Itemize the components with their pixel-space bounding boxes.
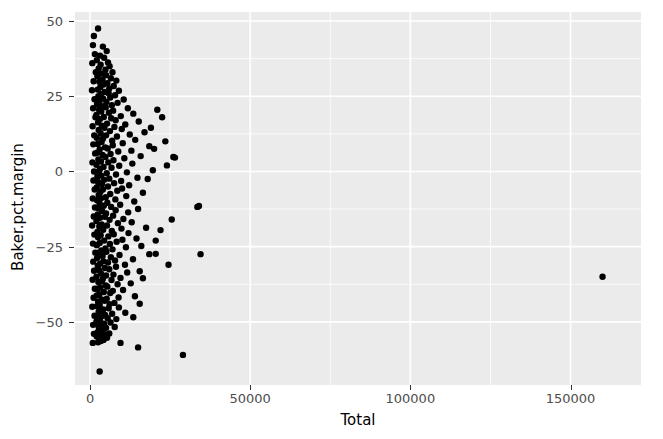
data-point (118, 178, 124, 184)
data-point (114, 100, 120, 106)
data-point (96, 368, 102, 374)
data-point (111, 180, 117, 186)
data-point (137, 301, 143, 307)
data-point (104, 283, 110, 289)
data-point (91, 213, 97, 219)
data-point (113, 316, 119, 322)
data-point (90, 295, 96, 301)
data-point (90, 42, 96, 48)
data-point (599, 274, 605, 280)
data-point (112, 324, 118, 330)
data-point (91, 231, 97, 237)
data-point (132, 293, 138, 299)
data-point (104, 145, 110, 151)
data-point (127, 131, 133, 137)
data-point (120, 216, 126, 222)
data-point (112, 257, 118, 263)
data-point (91, 168, 97, 174)
data-point (91, 33, 97, 39)
data-point (141, 129, 147, 135)
data-point (108, 277, 114, 283)
data-point (116, 163, 122, 169)
data-point (113, 264, 119, 270)
y-tick-mark (69, 322, 74, 323)
data-point (145, 176, 151, 182)
data-point (133, 235, 139, 241)
data-point (194, 204, 200, 210)
data-point (105, 159, 111, 165)
data-point (120, 287, 126, 293)
data-point (90, 195, 96, 201)
data-point (90, 141, 96, 147)
data-point (169, 216, 175, 222)
data-point (128, 280, 134, 286)
data-point (132, 137, 138, 143)
data-point (90, 258, 96, 264)
data-point (93, 69, 99, 75)
data-point (153, 237, 159, 243)
data-point (114, 187, 120, 193)
y-tick-mark (69, 247, 74, 248)
data-point (137, 153, 143, 159)
x-tick-mark (250, 385, 251, 390)
data-point (128, 147, 134, 153)
data-point (101, 125, 107, 131)
data-point (108, 165, 114, 171)
data-point (118, 225, 124, 231)
data-point (120, 96, 126, 102)
y-tick-label: 50 (46, 14, 63, 29)
y-tick-mark (69, 171, 74, 172)
data-point (135, 344, 141, 350)
data-point (91, 267, 97, 273)
data-point (99, 253, 105, 259)
x-tick-label: 0 (86, 391, 94, 406)
data-point (134, 175, 140, 181)
data-point (112, 196, 118, 202)
data-point (117, 340, 123, 346)
data-point (90, 340, 96, 346)
data-point (106, 266, 112, 272)
data-point (119, 126, 125, 132)
data-point (130, 256, 136, 262)
data-point (91, 96, 97, 102)
data-point (109, 69, 115, 75)
data-point (123, 193, 129, 199)
data-point (126, 182, 132, 188)
data-point (92, 186, 98, 192)
data-point (89, 277, 95, 283)
y-tick-label: 25 (46, 89, 63, 104)
data-point (90, 322, 96, 328)
y-tick-mark (69, 96, 74, 97)
data-point (89, 159, 95, 165)
data-point (170, 154, 176, 160)
data-point (146, 251, 152, 257)
data-point (124, 169, 130, 175)
data-point (124, 269, 130, 275)
data-point (113, 171, 119, 177)
data-point (89, 123, 95, 129)
data-point (109, 102, 115, 108)
data-point (90, 177, 96, 183)
data-point (157, 227, 163, 233)
data-point (89, 222, 95, 228)
data-point (136, 118, 142, 124)
data-point (92, 204, 98, 210)
y-tick-mark (69, 21, 74, 22)
data-point (148, 125, 154, 131)
data-point (101, 203, 107, 209)
data-point (89, 60, 95, 66)
y-axis-title: Baker.pct.margin (9, 117, 27, 297)
y-tick-label: 0 (55, 164, 63, 179)
data-point (116, 304, 122, 310)
data-point (125, 105, 131, 111)
data-point (131, 198, 137, 204)
data-point (90, 240, 96, 246)
data-point (114, 133, 120, 139)
data-point (92, 286, 98, 292)
data-point (123, 244, 129, 250)
data-point (153, 251, 159, 257)
x-tick-label: 50000 (230, 391, 271, 406)
data-point (118, 113, 124, 119)
data-point (162, 138, 168, 144)
data-point (92, 114, 98, 120)
